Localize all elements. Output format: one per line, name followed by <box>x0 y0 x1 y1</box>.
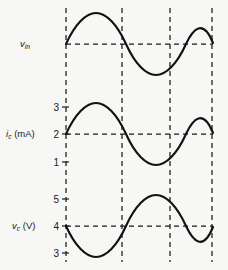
ticklabel-v-c-4: 4 <box>53 221 59 232</box>
label-v-in: vin <box>20 38 30 50</box>
label-v-c: vc (V) <box>12 220 35 232</box>
label-v-c-unit: (V) <box>23 220 36 231</box>
label-v-in-sub: in <box>25 43 31 50</box>
label-i-c: ic (mA) <box>6 128 35 140</box>
ticklabel-i-c-2: 2 <box>53 129 59 140</box>
vertical-gridlines <box>66 8 212 262</box>
label-i-c-unit: (mA) <box>14 128 35 139</box>
ticklabel-v-c-3: 3 <box>53 248 59 259</box>
ticklabel-v-c-5: 5 <box>53 194 59 205</box>
ticklabel-i-c-3: 3 <box>53 102 59 113</box>
ticklabel-i-c-1: 1 <box>53 157 59 168</box>
waveform-svg: vin 3 2 1 ic (mA) <box>0 0 228 270</box>
ticks-v-c: 5 4 3 <box>53 194 69 259</box>
panel-v-c: 5 4 3 vc (V) <box>12 194 213 259</box>
panel-v-in: vin <box>20 13 213 75</box>
waveform-figure: vin 3 2 1 ic (mA) <box>0 0 228 270</box>
ticks-i-c: 3 2 1 <box>53 102 69 168</box>
panel-i-c: 3 2 1 ic (mA) <box>6 102 213 168</box>
